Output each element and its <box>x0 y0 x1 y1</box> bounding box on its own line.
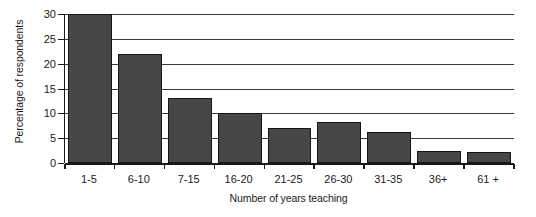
x-axis-tick-label: 21-25 <box>274 171 302 187</box>
x-axis-tick-mark <box>463 164 465 169</box>
bar <box>467 152 511 163</box>
y-axis-tick-labels: 051015202530 <box>26 14 56 163</box>
y-axis-tick-label: 20 <box>26 58 56 69</box>
bar <box>68 14 112 163</box>
y-axis-tick-label: 25 <box>26 33 56 44</box>
y-axis-tick-label: 5 <box>26 133 56 144</box>
y-axis-tick-label: 10 <box>26 108 56 119</box>
x-axis-tick-mark <box>413 164 415 169</box>
x-axis-tick-label: 6-10 <box>128 171 150 187</box>
x-axis-tick-mark <box>64 164 66 169</box>
x-axis-tick-label: 31-35 <box>374 171 402 187</box>
bar <box>367 132 411 163</box>
y-axis-tick-label: 15 <box>26 83 56 94</box>
x-axis-tick-label: 7-15 <box>178 171 200 187</box>
x-axis-tick-mark <box>313 164 315 169</box>
bar <box>417 151 461 163</box>
bar <box>168 98 212 163</box>
x-axis-tick-label: 26-30 <box>324 171 352 187</box>
x-axis-tick-label: 61 + <box>477 171 499 187</box>
x-axis-tick-mark <box>363 164 365 169</box>
bar-series <box>65 14 514 163</box>
x-axis-tick-mark <box>264 164 266 169</box>
y-axis-tick-label: 0 <box>26 158 56 169</box>
bar <box>218 113 262 163</box>
plot-area <box>64 14 514 163</box>
x-axis-title: Number of years teaching <box>64 192 513 204</box>
x-axis-tick-marks <box>64 164 514 169</box>
bar <box>317 122 361 163</box>
bar <box>268 128 312 163</box>
x-axis-tick-mark <box>513 164 515 169</box>
x-axis-tick-mark <box>114 164 116 169</box>
bar <box>118 54 162 163</box>
y-axis-tick-label: 30 <box>26 9 56 20</box>
x-axis-tick-mark <box>164 164 166 169</box>
x-axis-tick-mark <box>214 164 216 169</box>
x-axis-tick-label: 16-20 <box>225 171 253 187</box>
x-axis-tick-label: 36+ <box>429 171 448 187</box>
x-axis-tick-label: 1-5 <box>81 171 97 187</box>
bar-chart-figure: Percentage of respondents 051015202530 1… <box>0 0 536 217</box>
x-axis-tick-labels: 1-56-107-1516-2021-2526-3031-3536+61 + <box>64 171 513 189</box>
